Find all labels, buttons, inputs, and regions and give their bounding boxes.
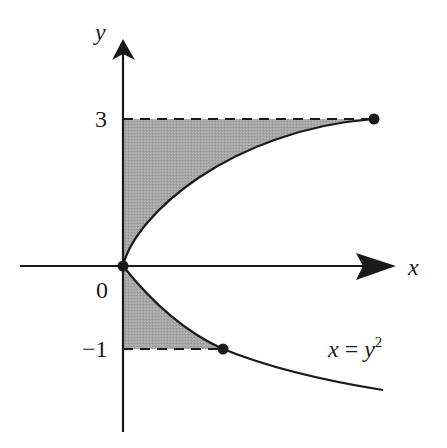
curve-equation-label: x = y2 [327, 334, 382, 362]
eq-lhs: x [327, 336, 339, 362]
y-tick-label-neg1: −1 [82, 336, 108, 362]
y-axis-label: y [93, 19, 106, 45]
bottom-endpoint [218, 344, 229, 355]
eq-sign: = [339, 336, 365, 362]
origin-label: 0 [96, 277, 108, 303]
x-axis-label: x [407, 254, 419, 280]
top-endpoint [369, 114, 380, 125]
shaded-region-upper [123, 119, 374, 266]
diagram-canvas: y x 0 3 −1 x = y2 [0, 0, 447, 448]
origin-point [118, 261, 129, 272]
eq-base: y [362, 336, 375, 362]
eq-exponent: 2 [375, 334, 383, 350]
y-tick-label-3: 3 [95, 106, 107, 132]
shaded-region-lower [123, 266, 223, 349]
